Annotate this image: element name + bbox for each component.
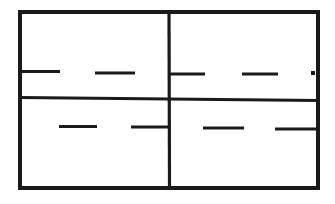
horizontal-center-line [19, 98, 319, 101]
dot-upper-right [311, 71, 315, 75]
diagram-canvas [0, 0, 335, 204]
diagram-svg [0, 0, 335, 204]
